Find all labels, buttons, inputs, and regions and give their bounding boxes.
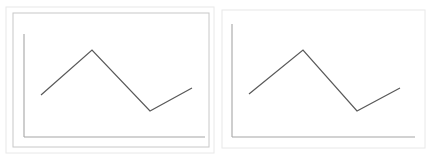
- left-chart-inner-frame: [13, 13, 209, 147]
- right-chart-svg: [219, 0, 429, 160]
- right-chart-outer-frame: [222, 10, 425, 148]
- chart-panel-right[interactable]: [219, 0, 429, 160]
- left-chart-svg: [0, 0, 219, 160]
- right-chart-line-series: [249, 50, 400, 111]
- left-chart-line-series: [41, 50, 192, 111]
- left-chart-outer-frame: [6, 7, 214, 153]
- chart-panel-left[interactable]: [0, 0, 219, 160]
- figure-canvas: [0, 0, 429, 160]
